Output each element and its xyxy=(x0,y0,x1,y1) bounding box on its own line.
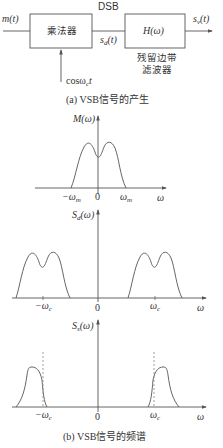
multiplier-label: 乘法器 xyxy=(47,26,77,36)
filter-label: H(ω) xyxy=(143,26,164,36)
sd-lower-sideband-curve xyxy=(16,252,70,298)
m-tick-zero: 0 xyxy=(95,192,100,202)
ss-xlabel: ω xyxy=(197,412,204,422)
output-label: sv(t) xyxy=(193,14,209,26)
sd-upper-sideband-curve xyxy=(128,252,182,298)
ss-tick-neg: −ωc xyxy=(35,410,52,422)
diagram-canvas xyxy=(0,0,223,448)
sd-tick-neg: −ωc xyxy=(35,301,52,313)
m-spectrum-curve xyxy=(71,142,126,188)
m-ylabel: M(ω) xyxy=(73,114,95,124)
ss-tick-zero: 0 xyxy=(95,412,100,422)
sd-xlabel: ω xyxy=(197,303,204,313)
filter-caption-line2: 滤波器 xyxy=(142,65,172,75)
m-tick-pos: ωm xyxy=(120,192,132,204)
dsb-label: DSB xyxy=(98,2,119,12)
m-tick-neg: −ωm xyxy=(62,192,81,204)
ss-upper-curve xyxy=(148,367,179,407)
sd-tick-pos: ωc xyxy=(150,301,160,313)
sd-label: sd(t) xyxy=(100,35,117,47)
input-label: m(t) xyxy=(2,14,19,24)
caption-b: (b) VSB信号的频谱 xyxy=(63,432,146,442)
ss-lower-curve xyxy=(16,367,47,407)
ss-tick-pos: ωc xyxy=(150,410,160,422)
m-xlabel: ω xyxy=(157,193,164,203)
sd-tick-zero: 0 xyxy=(95,303,100,313)
caption-a: (a) VSB信号的产生 xyxy=(66,95,149,105)
filter-caption-line1: 残留边带 xyxy=(137,53,177,63)
carrier-label: cosωct xyxy=(66,76,92,88)
ss-ylabel: Ss(ω) xyxy=(72,321,93,333)
sd-ylabel: Sd(ω) xyxy=(72,210,94,222)
